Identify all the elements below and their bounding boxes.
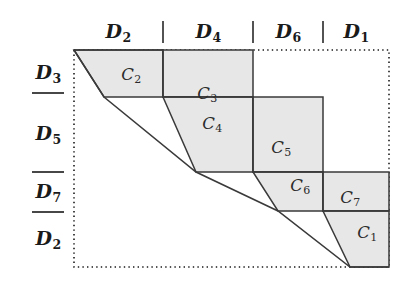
column-header-D1: D1 [343, 22, 368, 41]
cell-c5-label: C5 [271, 140, 291, 157]
cell-c6 [253, 172, 323, 211]
staircase-diagram [0, 0, 410, 282]
cell-c3-label: C3 [197, 86, 217, 103]
column-header-D4: D4 [195, 22, 220, 41]
cell-c6-label: C6 [290, 178, 310, 195]
row-header-D3: D3 [35, 63, 60, 82]
column-header-D2: D2 [105, 22, 130, 41]
row-header-D7: D7 [35, 182, 60, 201]
cell-c7-label: C7 [340, 190, 360, 207]
cell-c1 [323, 211, 389, 267]
figure-container: D2D4D6D1 D3D5D7D2 C2C3C4C5C6C7C1 [0, 0, 410, 282]
column-header-D6: D6 [275, 22, 300, 41]
row-header-D2: D2 [35, 229, 60, 248]
cell-c2 [74, 50, 163, 97]
cell-c1-label: C1 [357, 225, 377, 242]
cell-c2-label: C2 [121, 67, 141, 84]
cell-c4 [163, 97, 253, 172]
cell-c4-label: C4 [202, 116, 222, 133]
row-header-D5: D5 [35, 124, 60, 143]
cell-c5 [253, 97, 323, 172]
